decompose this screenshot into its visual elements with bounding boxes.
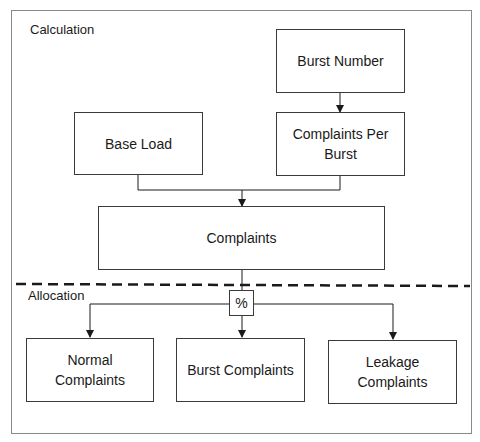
node-label: Burst Number (297, 51, 383, 71)
edge-percent-to-leakage (254, 304, 393, 339)
node-label: Leakage Complaints (347, 352, 438, 392)
percent-icon: % (235, 295, 247, 311)
node-leakage-complaints: Leakage Complaints (328, 340, 457, 404)
node-label: Burst Complaints (187, 360, 294, 380)
node-percent-operator: % (229, 290, 254, 316)
node-complaints-per-burst: Complaints Per Burst (276, 112, 405, 176)
node-normal-complaints: Normal Complaints (26, 338, 154, 402)
edge-percent-to-normal (90, 304, 229, 337)
section-divider (16, 284, 470, 286)
node-label: Normal Complaints (45, 350, 135, 390)
node-base-load: Base Load (74, 112, 203, 175)
node-label: Complaints Per Burst (285, 124, 396, 164)
node-burst-number: Burst Number (276, 29, 405, 93)
node-burst-complaints: Burst Complaints (176, 338, 305, 402)
node-label: Base Load (105, 134, 172, 154)
node-complaints: Complaints (98, 206, 385, 270)
node-label: Complaints (206, 228, 276, 248)
edge-join-baseload-cpb (138, 175, 340, 190)
